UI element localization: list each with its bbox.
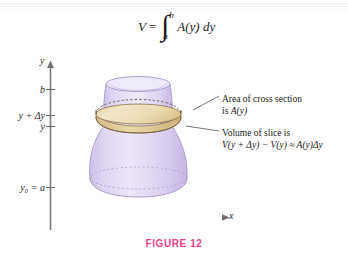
callout-area-of-cross-section: Area of cross section is A(y) xyxy=(222,93,302,117)
callout-volume-line1: Volume of slice is xyxy=(222,127,323,139)
tick-label-b: b xyxy=(20,84,45,95)
figure-12-container: V = b ∫ a A(y) dy xyxy=(0,0,348,262)
callout-area-line2-prefix: is xyxy=(222,106,231,116)
callout-area-line2-math: A(y) xyxy=(231,106,247,116)
y-axis-label: y xyxy=(40,55,44,66)
leader-line-volume xyxy=(186,126,219,131)
callout-volume-of-slice: Volume of slice is V(y + Δy) − V(y) ≈ A(… xyxy=(222,127,323,151)
tick-label-y0-equals-a: y₀ = a xyxy=(4,182,45,193)
callout-volume-line2: V(y + Δy) − V(y) ≈ A(y)Δy xyxy=(222,139,323,151)
tick-label-y-plus-delta-y: y + Δy xyxy=(2,110,45,121)
tick-label-y: y xyxy=(20,121,45,132)
solid-of-revolution xyxy=(90,77,187,198)
y-axis-arrowhead xyxy=(47,61,54,69)
figure-caption: FIGURE 12 xyxy=(0,238,348,249)
callout-area-line2: is A(y) xyxy=(222,105,302,117)
solid-top-rim-ellipse xyxy=(106,77,170,92)
slice-top-face xyxy=(96,104,181,124)
callout-leader-lines xyxy=(186,96,219,131)
x-axis-label: x xyxy=(229,210,233,221)
solid-lower-body xyxy=(90,126,187,197)
leader-line-area xyxy=(193,96,219,110)
callout-area-line1: Area of cross section xyxy=(222,93,302,105)
